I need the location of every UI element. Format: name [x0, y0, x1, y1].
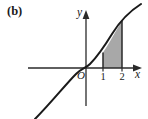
x-tick-label-1: 1	[98, 71, 108, 82]
y-axis-arrow-icon	[83, 10, 90, 19]
x-axis-label: x	[135, 68, 140, 80]
panel-label: (b)	[7, 4, 22, 19]
y-axis-label: y	[77, 6, 82, 18]
figure-panel-b: (b) y x O 1 2	[0, 0, 148, 119]
function-curve	[35, 4, 141, 119]
origin-label: O	[77, 69, 85, 81]
x-tick-label-2: 2	[117, 71, 127, 82]
